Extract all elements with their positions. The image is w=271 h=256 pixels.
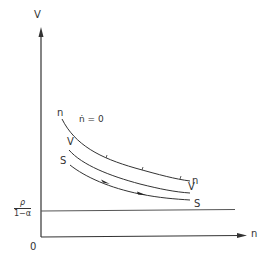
x-axis-arrowhead bbox=[237, 233, 247, 238]
origin-label: 0 bbox=[30, 242, 36, 252]
n-curve-start-label: n bbox=[57, 108, 63, 118]
n-dot-zero-curve bbox=[62, 119, 190, 181]
x-axis bbox=[41, 236, 240, 238]
direction-arrow-icon bbox=[137, 192, 146, 196]
phase-diagram: V n 0 ρ 1−α n ṅ = 0 n V V S S bbox=[0, 0, 271, 256]
diagram-canvas bbox=[0, 0, 271, 256]
threshold-numerator: ρ bbox=[14, 199, 31, 209]
threshold-label: ρ 1−α bbox=[14, 199, 31, 218]
y-axis-arrowhead bbox=[39, 27, 44, 37]
v-curve-start-label: V bbox=[67, 137, 74, 147]
x-axis-label: n bbox=[251, 229, 257, 239]
n-dot-zero-annotation: ṅ = 0 bbox=[79, 115, 104, 124]
v-curve bbox=[69, 150, 190, 193]
v-curve-end-label: V bbox=[188, 182, 195, 192]
tick-mark bbox=[142, 167, 143, 170]
s-curve-end-label: S bbox=[194, 199, 200, 209]
tick-mark bbox=[106, 155, 107, 158]
threshold-line bbox=[41, 210, 235, 212]
y-axis-label: V bbox=[34, 10, 41, 20]
s-curve-start-label: S bbox=[60, 156, 66, 166]
s-curve bbox=[70, 165, 190, 200]
threshold-denominator: 1−α bbox=[14, 209, 31, 218]
tick-mark bbox=[180, 176, 181, 179]
